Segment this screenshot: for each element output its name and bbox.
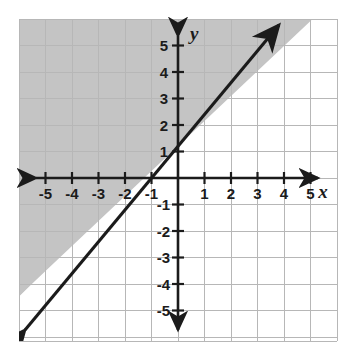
x-tick-label: -3 bbox=[92, 185, 105, 202]
x-tick-label: 3 bbox=[253, 185, 261, 202]
y-tick-label: -3 bbox=[157, 249, 170, 266]
y-tick-label: -1 bbox=[157, 196, 170, 213]
y-axis-label: y bbox=[188, 23, 199, 44]
x-axis-label: x bbox=[317, 181, 328, 202]
y-tick-label: -5 bbox=[157, 302, 170, 319]
y-tick-label: -2 bbox=[157, 223, 170, 240]
coordinate-plane-svg: -5 -4 -3 -2 -1 1 2 3 4 5 5 4 3 2 1 -1 -2… bbox=[0, 0, 344, 355]
y-tick-label: 2 bbox=[160, 117, 168, 134]
graph-figure: -5 -4 -3 -2 -1 1 2 3 4 5 5 4 3 2 1 -1 -2… bbox=[0, 0, 344, 355]
x-tick-label: 2 bbox=[227, 185, 235, 202]
y-tick-label: -4 bbox=[157, 276, 171, 293]
x-tick-label: -5 bbox=[39, 185, 52, 202]
y-tick-label: 5 bbox=[160, 37, 168, 54]
x-tick-label: 1 bbox=[200, 185, 208, 202]
x-tick-label: 4 bbox=[280, 185, 289, 202]
y-tick-label: 3 bbox=[160, 90, 168, 107]
x-tick-label: -2 bbox=[118, 185, 131, 202]
y-tick-label: 1 bbox=[160, 143, 168, 160]
x-tick-label: -4 bbox=[65, 185, 79, 202]
y-tick-label: 4 bbox=[160, 64, 169, 81]
x-tick-label: 5 bbox=[306, 185, 314, 202]
